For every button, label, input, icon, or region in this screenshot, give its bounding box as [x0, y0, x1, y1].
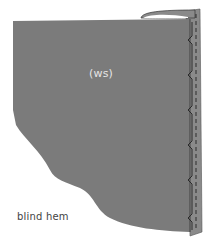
wrong-side-label: (ws): [89, 67, 113, 80]
blind-hem-diagram: [0, 0, 209, 244]
fabric-panel: [13, 19, 190, 232]
diagram-caption: blind hem: [17, 211, 69, 222]
